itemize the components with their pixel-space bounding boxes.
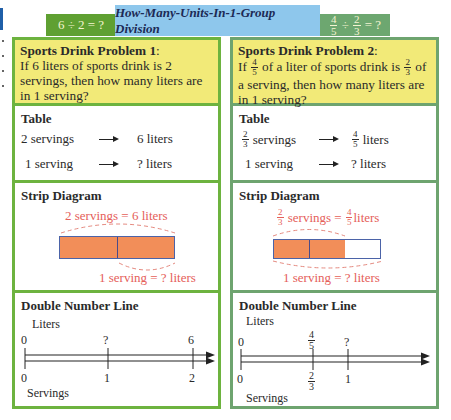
table-row-right: 45 liters [351,130,389,149]
numerator: 4 [330,14,338,26]
fraction-two-thirds: 23 [404,58,411,77]
problem-1-panel: Sports Drink Problem 1: If 6 liters of s… [12,37,221,409]
table-row-right: ? liters [137,156,172,172]
strip-segment-empty [345,240,380,258]
header-left-equation: 6 ÷ 2 = ? [46,14,116,36]
bottom-tick-label: 23 [307,371,316,392]
strip-bottom-label: 1 serving = ? liters [283,270,380,286]
bottom-tick-label: 1 [345,372,351,387]
text: of a liter of sports drink is [262,59,400,74]
strip-segment-filled [117,237,175,258]
problem-1-strip-section: Strip Diagram 2 servings = 6 liters 1 se… [15,183,218,293]
denominator: 5 [331,26,337,37]
fraction: 23 [353,14,361,37]
bottom-tick-label: 2 [189,371,195,386]
table-row-left: 1 serving [25,156,73,172]
colon: : [374,43,378,58]
strip-segment-filled [274,240,309,258]
problem-2-text-block: Sports Drink Problem 2: If 45 of a liter… [238,43,432,107]
table-row-right: 6 liters [137,131,173,147]
denominator: 3 [309,382,314,392]
arrow-right-icon [99,164,117,165]
servings-axis-label: Servings [27,386,69,401]
bottom-tick-label: 0 [21,371,27,386]
unit: servings [253,132,296,148]
header-right-equation: 45 ÷ 23 = ? [320,14,390,36]
problem-2-strip-section: Strip Diagram 23 servings = 45liters 1 s… [233,183,436,293]
problem-1-heading: Sports Drink Problem 1 [20,43,156,58]
fraction-four-fifths: 45 [251,58,258,77]
problem-1-text-block: Sports Drink Problem 1: If 6 liters of s… [20,43,214,103]
equals-question: = ? [365,17,381,33]
denominator: 3 [243,140,248,149]
strip-bottom-label: 1 serving = ? liters [99,270,196,286]
fraction-two-thirds: 23 [242,130,249,149]
servings-axis-label: Servings [246,391,288,406]
numerator: 2 [353,14,361,26]
page-edge-dot [2,55,4,57]
unit: liters [363,132,389,148]
operator: ÷ [342,17,349,33]
bottom-tick-label: 0 [237,372,243,387]
table-row-right: ? liters [351,156,386,172]
problem-2-number-line-section: Double Number Line Liters 0 45 ? 0 23 1 … [233,293,436,406]
header-title: How-Many-Units-In-1-Group Division [115,5,320,36]
denominator: 3 [354,26,360,37]
problem-1-statement: Sports Drink Problem 1: If 6 liters of s… [15,40,218,106]
problem-1-text: If 6 liters of sports drink is 2 serving… [20,58,202,103]
strip-bar [273,239,381,259]
text: If [238,59,247,74]
problem-2-heading: Sports Drink Problem 2 [238,43,374,58]
problem-2-statement: Sports Drink Problem 2: If 45 of a liter… [233,40,436,106]
arrow-right-icon [319,139,337,140]
table-row-left: 23 servings [241,130,296,149]
table-title: Table [239,111,270,127]
fraction: 45 [330,14,338,37]
denominator: 3 [405,68,410,77]
problem-2-panel: Sports Drink Problem 2: If 45 of a liter… [230,37,439,409]
page-edge-dot [2,85,4,87]
bottom-tick-label: 1 [104,371,110,386]
page-edge-dot [2,70,4,72]
fraction-two-thirds: 23 [308,371,315,392]
strip-segment-filled [309,240,345,258]
fraction-four-fifths: 45 [352,130,359,149]
arrow-right-icon [99,139,117,140]
page-edge-dot [2,40,4,42]
arrow-right-icon [319,164,337,165]
table-title: Table [21,111,52,127]
table-row-left: 1 serving [245,156,293,172]
page-edge-mark [0,8,3,30]
double-number-line [233,293,436,406]
table-row-left: 2 servings [21,131,74,147]
strip-bar [59,236,175,259]
problem-2-table-section: Table 23 servings 45 liters 1 serving ? … [233,106,436,183]
denominator: 5 [252,68,257,77]
denominator: 5 [353,140,358,149]
problem-1-table-section: Table 2 servings 6 liters 1 serving ? li… [15,106,218,183]
strip-segment-filled [60,237,117,258]
problem-1-number-line-section: Double Number Line Liters 0 ? 6 0 1 2 Se… [15,293,218,406]
colon: : [156,43,160,58]
